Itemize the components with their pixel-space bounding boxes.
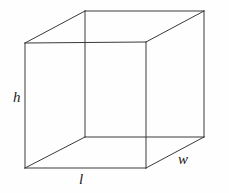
width-label: w	[178, 152, 188, 167]
edge-depth-bottom-right	[146, 137, 204, 168]
cuboid-wireframe	[0, 0, 229, 193]
height-label: h	[13, 90, 21, 105]
length-label: l	[79, 172, 83, 187]
edge-depth-top-right	[146, 11, 204, 42]
rectangular-prism-figure: h l w	[0, 0, 229, 193]
edge-depth-top-left	[25, 11, 85, 43]
edge-depth-bottom-left	[25, 137, 85, 168]
